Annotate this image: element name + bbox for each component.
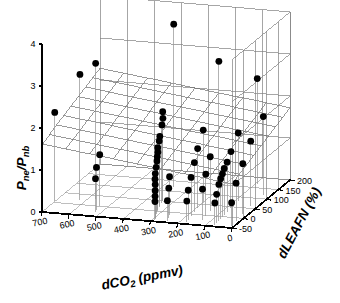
data-point-marker [185,187,192,194]
x-axis-tick-label: 500 [86,220,103,233]
data-point-marker [194,145,201,152]
z-axis-tick-label: 2 [30,123,35,133]
data-point-marker [215,181,222,188]
figure-3d-scatter-plot: 012347006005004003002001000-500501001502… [0,0,340,303]
data-point-marker [239,160,246,167]
z-axis-tick-label: 4 [30,39,35,49]
data-point-marker [247,138,254,145]
plot-canvas: 012347006005004003002001000-500501001502… [0,0,340,303]
data-point-marker [235,130,242,137]
y-axis-tick-label: 100 [274,195,289,205]
data-point-marker [166,173,173,180]
data-point-marker [260,113,267,120]
data-point-marker [254,75,261,82]
data-point-marker [183,198,190,205]
y-axis-tick-label: 0 [251,214,256,224]
data-point-marker [93,164,100,171]
z-axis-title-numerator-sub: ne [20,169,31,181]
x-axis-tick-label: 200 [167,227,184,240]
data-point-marker [200,127,207,134]
x-axis-title-main: dCO [100,273,131,293]
x-axis-tick-label: 600 [59,218,76,231]
data-point-marker [160,115,167,122]
axis-tick-labels: 012347006005004003002001000-500501001502… [30,39,312,243]
data-point-marker [228,148,235,155]
y-axis-tick-label: -50 [239,224,252,234]
data-point-marker [156,138,163,145]
data-point-marker [207,153,214,160]
x-axis-tick-label: 400 [113,223,130,236]
data-point-marker [92,60,99,67]
z-axis-tick-label: 0 [30,207,35,217]
x-axis-tick-label: 700 [32,216,49,229]
data-point-marker [77,71,84,78]
z-axis-title: Pne/Pnb [14,146,31,191]
data-point-marker [191,159,198,166]
x-axis-tick-label: 300 [140,225,157,238]
x-axis-title-unit: (ppmv) [133,262,184,286]
data-point-marker [228,199,235,206]
data-point-marker [211,200,218,207]
svg-text:dCO2 (ppmv): dCO2 (ppmv) [100,262,185,295]
back-wall-grid [100,0,290,180]
data-point-marker [153,164,160,171]
data-point-marker [224,159,231,166]
data-point-marker [159,122,166,129]
data-point-marker [217,175,224,182]
data-point-marker [96,151,103,158]
data-point-marker [199,186,206,193]
data-point-marker [215,58,222,65]
data-point-marker [170,21,177,28]
y-axis-tick-label: 150 [285,186,300,196]
x-axis-title: dCO2 (ppmv) [100,262,185,295]
x-axis-tick-label: 0 [227,233,234,244]
data-point-marker [188,174,195,181]
data-point-marker [154,158,161,165]
data-point-marker [92,175,99,182]
data-point-marker [213,191,220,198]
data-point-marker [51,109,58,116]
y-axis-tick-label: 200 [297,176,312,186]
z-axis-tick-label: 1 [30,165,35,175]
data-point-marker [233,180,240,187]
x-axis-tick-label: 100 [194,229,211,242]
data-point-marker [202,171,209,178]
svg-text:Pne/Pnb: Pne/Pnb [14,146,31,191]
data-point-marker [159,108,166,115]
data-point-marker [164,197,171,204]
z-axis-tick-label: 3 [30,81,35,91]
z-axis-title-denominator-sub: nb [20,146,31,158]
data-point-marker [165,185,172,192]
data-point-marker [152,198,159,205]
y-axis-tick-label: 50 [262,205,272,215]
data-point-marker [152,181,159,188]
